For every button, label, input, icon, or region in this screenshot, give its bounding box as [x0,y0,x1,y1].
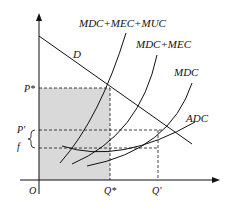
label-q-star: Q* [104,185,116,196]
label-demand: D [72,48,81,60]
label-q-prime: Q' [152,185,162,196]
label-origin: O [29,185,36,196]
label-p-star: P* [23,83,35,94]
label-f: f [17,141,21,152]
label-mdc-mec: MDC+MEC [135,38,192,50]
economics-diagram: MDC+MEC+MUC MDC+MEC MDC ADC D P* P' f O … [0,0,231,210]
label-mdc: MDC [173,66,199,78]
label-mdc-mec-muc: MDC+MEC+MUC [78,17,167,29]
label-p-prime: P' [16,124,26,135]
brace-icon [28,130,35,148]
label-adc: ADC [185,112,209,124]
